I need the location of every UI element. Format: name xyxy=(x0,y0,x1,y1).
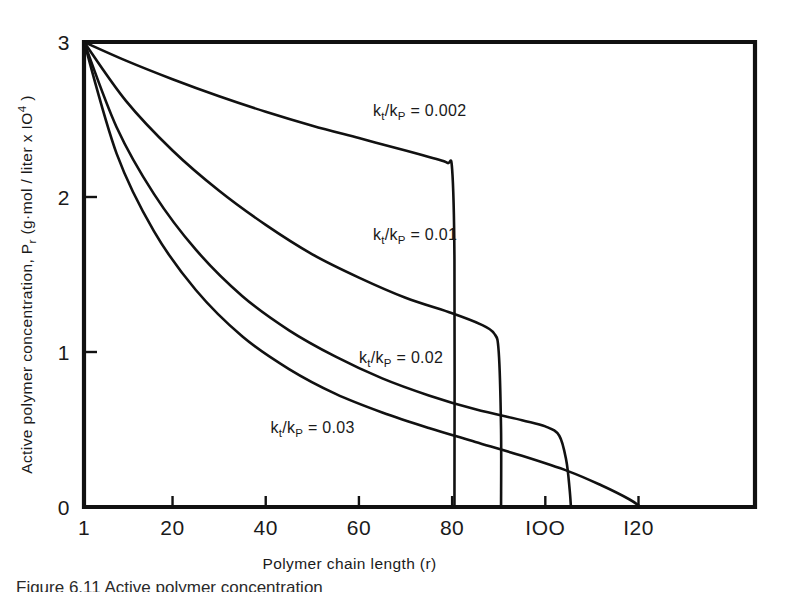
x-tick-label-20: 20 xyxy=(160,516,184,539)
y-axis-title: Active polymer concentration, Pr (g·mol … xyxy=(16,95,38,474)
x-tick-label-40: 40 xyxy=(254,516,278,539)
curve-label-3: kt/kP = 0.03 xyxy=(270,419,354,439)
x-tick-label-100: IOO xyxy=(525,516,565,539)
x-tick-label-60: 60 xyxy=(347,516,371,539)
x-axis-title: Polymer chain length (r) xyxy=(262,555,436,572)
y-tick-label-2: 2 xyxy=(58,186,70,209)
curve-label-2: kt/kP = 0.02 xyxy=(359,349,443,369)
figure-container: 120406080IOOI200123Polymer chain length … xyxy=(0,0,785,592)
figure-caption: Figure 6.11 Active polymer concentration xyxy=(16,578,436,592)
x-tick-label-120: I20 xyxy=(623,516,654,539)
curve-3 xyxy=(84,42,641,507)
y-tick-label-0: 0 xyxy=(58,496,70,519)
x-tick-label-80: 80 xyxy=(440,516,464,539)
curve-2 xyxy=(84,42,571,507)
curve-label-0: kt/kP = 0.002 xyxy=(373,102,467,122)
y-tick-label-1: 1 xyxy=(58,341,70,364)
x-tick-label-1: 1 xyxy=(78,516,90,539)
y-tick-label-3: 3 xyxy=(58,31,70,54)
polymer-chain-length-chart: 120406080IOOI200123Polymer chain length … xyxy=(0,0,785,592)
curve-label-1: kt/kP = 0.01 xyxy=(373,226,457,246)
